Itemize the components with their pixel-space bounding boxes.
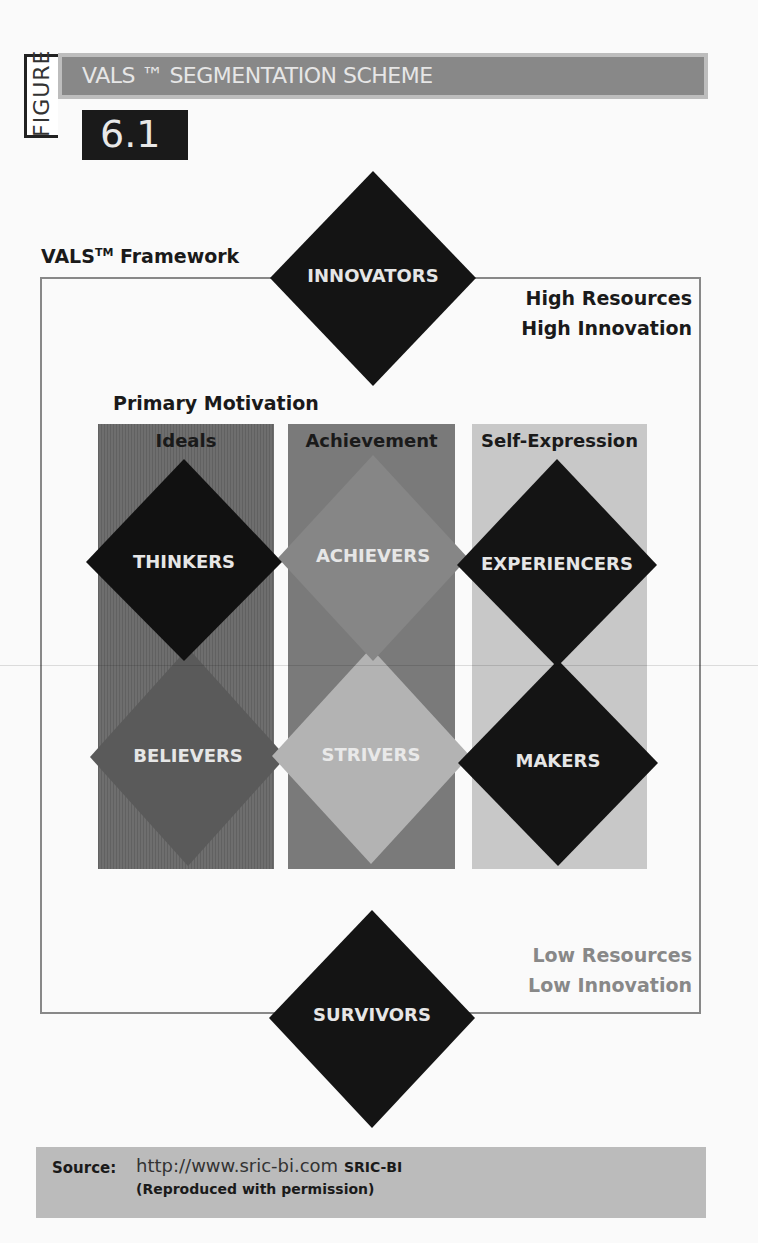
segment-survivors: SURVIVORS bbox=[269, 910, 475, 1128]
segment-label-innovators: INNOVATORS bbox=[270, 265, 476, 286]
framework-title: VALSTM Framework bbox=[41, 245, 239, 267]
figure-title: VALS ™ SEGMENTATION SCHEME bbox=[82, 63, 433, 88]
segment-label-survivors: SURVIVORS bbox=[269, 1004, 475, 1025]
segment-thinkers: THINKERS bbox=[86, 459, 282, 661]
segment-makers: MAKERS bbox=[458, 660, 658, 866]
low-innovation-text: Low Innovation bbox=[528, 970, 692, 1000]
segment-innovators: INNOVATORS bbox=[270, 171, 476, 386]
segment-experiencers: EXPERIENCERS bbox=[457, 459, 657, 667]
figure-label-box: FIGURE bbox=[24, 54, 58, 138]
segment-label-believers: BELIEVERS bbox=[90, 745, 286, 766]
source-url[interactable]: http://www.sric-bi.com bbox=[136, 1155, 338, 1176]
segment-label-experiencers: EXPERIENCERS bbox=[457, 553, 657, 574]
segment-achievers: ACHIEVERS bbox=[278, 455, 468, 661]
source-line: http://www.sric-bi.com SRIC-BI bbox=[136, 1155, 402, 1176]
high-innovation-text: High Innovation bbox=[521, 313, 692, 343]
figure-label: FIGURE bbox=[29, 53, 54, 137]
scan-artifact-line bbox=[0, 665, 758, 666]
trademark-mark: TM bbox=[95, 246, 113, 259]
source-note: (Reproduced with permission) bbox=[136, 1181, 374, 1197]
column-label-achievement: Achievement bbox=[288, 430, 455, 451]
segment-label-makers: MAKERS bbox=[458, 750, 658, 771]
segment-strivers: STRIVERS bbox=[272, 648, 470, 864]
segment-label-achievers: ACHIEVERS bbox=[278, 545, 468, 566]
primary-motivation-title: Primary Motivation bbox=[113, 392, 319, 414]
column-label-self-expression: Self-Expression bbox=[472, 430, 647, 451]
segment-label-thinkers: THINKERS bbox=[86, 551, 282, 572]
low-resources-text: Low Resources bbox=[528, 940, 692, 970]
segment-believers: BELIEVERS bbox=[90, 648, 286, 866]
column-label-ideals: Ideals bbox=[98, 430, 274, 451]
source-org: SRIC-BI bbox=[344, 1159, 402, 1175]
figure-number: 6.1 bbox=[100, 112, 160, 156]
source-label: Source: bbox=[52, 1159, 116, 1177]
high-resources-text: High Resources bbox=[521, 283, 692, 313]
framework-title-suffix: Framework bbox=[113, 245, 239, 267]
framework-title-text: VALS bbox=[41, 245, 95, 267]
low-resources-label: Low Resources Low Innovation bbox=[528, 940, 692, 1000]
segment-label-strivers: STRIVERS bbox=[272, 744, 470, 765]
high-resources-label: High Resources High Innovation bbox=[521, 283, 692, 343]
